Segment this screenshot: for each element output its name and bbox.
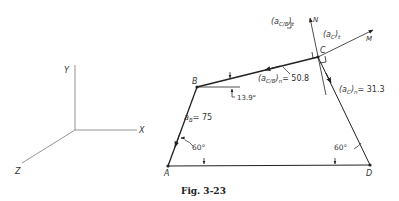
angle-D-label: 60° — [334, 143, 348, 152]
angle-D-leader — [354, 143, 361, 149]
angle-A-label: 60° — [192, 143, 206, 152]
ac-t-label: (aC)t — [323, 30, 341, 40]
aB-label: aB= 75 — [184, 113, 212, 123]
ac-n-label: (aC)n= 31.3 — [339, 85, 385, 95]
z-axis — [22, 130, 75, 163]
z-axis-label: Z — [14, 167, 21, 176]
point-B-label: B — [192, 77, 198, 86]
angle-B-leader — [232, 95, 235, 97]
point-D-label: D — [366, 169, 372, 178]
x-axis-label: X — [138, 126, 145, 135]
joint-D — [368, 163, 371, 166]
ac-n-arrow — [326, 73, 331, 83]
aB-arrow — [175, 133, 180, 147]
angle-B-label: 13.9° — [237, 94, 256, 102]
point-N-label: N — [313, 16, 319, 24]
link-AD — [168, 165, 370, 166]
acb-t-label: (aC/B)t — [271, 17, 295, 27]
joint-A — [166, 164, 169, 167]
point-A-label: A — [163, 169, 169, 178]
point-M-label: M — [366, 35, 372, 43]
diagram-canvas: Y X Z A — [0, 0, 399, 201]
link-AB — [168, 87, 197, 166]
acb-n-leader — [283, 67, 290, 74]
acb-n-label: (aC/B)n= 50.8 — [258, 74, 309, 84]
y-axis-label: Y — [64, 66, 70, 75]
joint-C — [316, 55, 319, 58]
acb-n-arrow — [265, 66, 280, 70]
coordinate-axes — [22, 65, 137, 163]
figure-caption: Fig. 3-23 — [181, 186, 226, 196]
point-C-label: C — [320, 46, 326, 55]
